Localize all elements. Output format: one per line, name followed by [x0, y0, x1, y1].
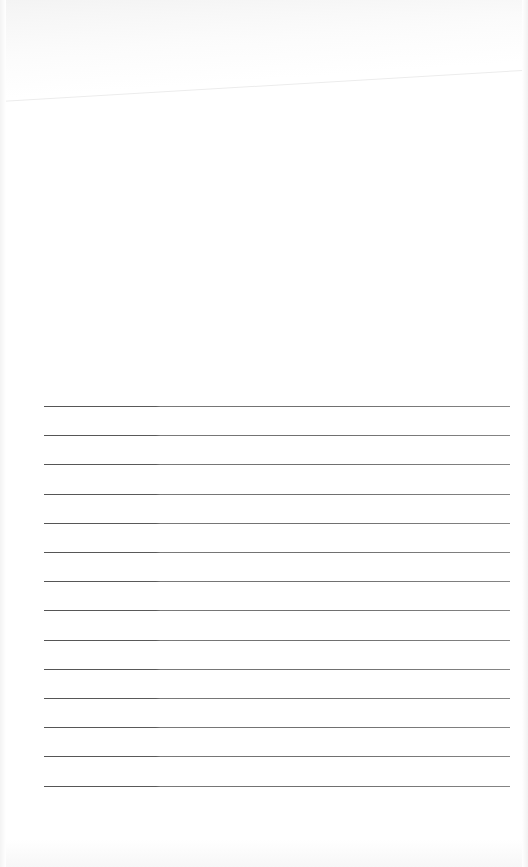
scan-right-edge [522, 0, 528, 867]
scan-left-edge [0, 0, 6, 867]
scan-top-shadow [0, 0, 528, 104]
ruled-line [44, 640, 510, 641]
ruled-line [44, 786, 510, 787]
ruled-line [44, 756, 510, 757]
ruled-line [44, 610, 510, 611]
ruled-line [44, 464, 510, 465]
ruled-line [44, 406, 510, 407]
ruled-line [44, 435, 510, 436]
ruled-line [44, 523, 510, 524]
ruled-line [44, 552, 510, 553]
ruled-line [44, 581, 510, 582]
ruled-line [44, 494, 510, 495]
ruled-line [44, 727, 510, 728]
ruled-line [44, 698, 510, 699]
ruled-line [44, 669, 510, 670]
document-page [0, 0, 528, 867]
